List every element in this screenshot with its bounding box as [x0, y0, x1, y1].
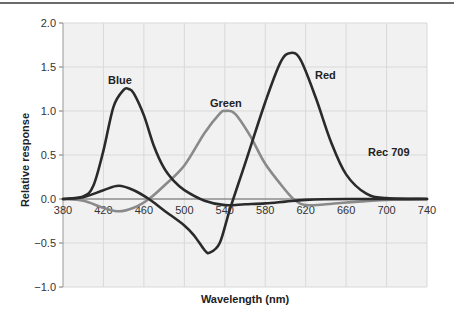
x-tick-label: 380 [54, 204, 72, 216]
chart: 2.01.51.00.50.0−0.5−1.0 3804204605005405… [0, 0, 454, 318]
blue-label: Blue [108, 74, 132, 86]
y-tick-label: 1.0 [41, 105, 56, 117]
x-axis-title: Wavelength (nm) [201, 293, 290, 305]
x-tick-label: 700 [377, 204, 395, 216]
y-tick-label: −0.5 [34, 237, 56, 249]
y-tick-label: −1.0 [34, 281, 56, 293]
rec709-annotation: Rec 709 [368, 146, 410, 158]
y-axis-title: Relative response [19, 113, 31, 207]
x-tick-label: 740 [418, 204, 436, 216]
x-tick-label: 500 [175, 204, 193, 216]
y-tick-label: 2.0 [41, 17, 56, 29]
red-label: Red [315, 69, 336, 81]
green-label: Green [210, 97, 242, 109]
y-axis: 2.01.51.00.50.0−0.5−1.0 [34, 17, 63, 293]
x-tick-label: 660 [337, 204, 355, 216]
y-tick-label: 1.5 [41, 61, 56, 73]
y-tick-label: 0.5 [41, 149, 56, 161]
x-tick-label: 580 [256, 204, 274, 216]
